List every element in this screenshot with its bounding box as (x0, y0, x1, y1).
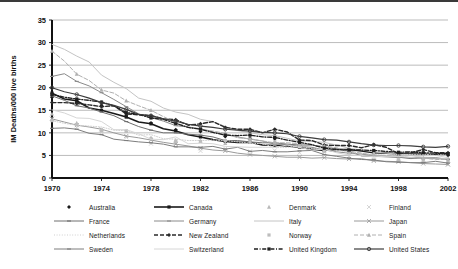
legend-label-sweden: Sweden (86, 246, 113, 253)
legend-swatch (352, 243, 386, 255)
legend-key-united-states (352, 243, 386, 255)
legend-item-spain[interactable]: Spain (352, 228, 452, 242)
data-marker (372, 149, 375, 152)
data-marker (125, 115, 128, 118)
data-marker (50, 119, 53, 122)
legend-key-netherlands (52, 229, 86, 241)
legend-key-italy (252, 215, 286, 227)
figure-top-border (0, 0, 458, 2)
legend-item-denmark[interactable]: Denmark (252, 200, 352, 214)
legend-swatch (252, 229, 286, 241)
legend-item-finland[interactable]: Finland (352, 200, 452, 214)
legend-swatch (152, 215, 186, 227)
data-marker (50, 101, 54, 105)
xtick-label: 1990 (291, 184, 308, 193)
xtick-label: 1994 (341, 184, 359, 193)
ytick-label: 30 (38, 38, 46, 47)
legend-row: Australia Canada Denmark Finland (52, 200, 452, 214)
legend-key-denmark (252, 201, 286, 213)
xtick-label: 1974 (93, 184, 111, 193)
xtick-label: 1982 (192, 184, 209, 193)
y-axis-title: IM Deaths/000 live births (9, 55, 18, 143)
data-marker (224, 139, 227, 142)
legend-swatch (152, 243, 186, 255)
legend-swatch (352, 215, 386, 227)
legend-key-united-kingdom (252, 243, 286, 255)
legend-key-sweden (52, 243, 86, 255)
legend-swatch (252, 201, 286, 213)
xtick-label: 1978 (143, 184, 160, 193)
data-marker (446, 152, 449, 155)
legend-swatch (52, 229, 86, 241)
legend-item-switzerland[interactable]: Switzerland (152, 242, 252, 256)
data-marker (50, 112, 54, 116)
ytick-label: 5 (42, 151, 46, 160)
data-marker (124, 99, 128, 103)
data-marker (50, 93, 53, 96)
legend-item-new-zealand[interactable]: New Zealand (152, 228, 252, 242)
legend-key-france (52, 215, 86, 227)
legend-item-united-kingdom[interactable]: United Kingdom (252, 242, 352, 256)
legend-swatch (352, 229, 386, 241)
legend-label-new-zealand: New Zealand (186, 232, 228, 239)
data-marker (323, 150, 326, 153)
legend-key-spain (352, 229, 386, 241)
data-marker (248, 134, 251, 137)
legend-item-united-states[interactable]: United States (352, 242, 452, 256)
legend-label-finland: Finland (386, 204, 411, 211)
legend-key-japan (352, 215, 386, 227)
legend-label-united-kingdom: United Kingdom (286, 246, 337, 253)
series-line (52, 74, 448, 159)
legend-item-sweden[interactable]: Sweden (52, 242, 152, 256)
legend-swatch (52, 201, 86, 213)
legend-item-france[interactable]: France (52, 214, 152, 228)
data-marker (367, 205, 371, 209)
legend-row: Netherlands New Zealand Norway Spain (52, 228, 452, 242)
legend-label-australia: Australia (86, 204, 115, 211)
legend-item-italy[interactable]: Italy (252, 214, 352, 228)
legend-item-netherlands[interactable]: Netherlands (52, 228, 152, 242)
legend-item-australia[interactable]: Australia (52, 200, 152, 214)
legend-label-canada: Canada (186, 204, 212, 211)
xtick-label: 2002 (440, 184, 457, 193)
legend-item-norway[interactable]: Norway (252, 228, 352, 242)
data-marker (75, 123, 78, 126)
xtick-label: 1986 (242, 184, 259, 193)
legend-item-japan[interactable]: Japan (352, 214, 452, 228)
data-marker (167, 233, 171, 237)
data-marker (273, 136, 276, 139)
data-marker (167, 205, 170, 208)
data-marker (273, 127, 277, 131)
legend-item-germany[interactable]: Germany (152, 214, 252, 228)
data-marker (267, 247, 270, 250)
legend-label-united-states: United States (386, 246, 429, 253)
data-marker (347, 148, 350, 151)
data-marker (149, 122, 152, 125)
data-marker (199, 140, 202, 143)
data-marker (100, 129, 103, 132)
chart-legend: Australia Canada Denmark Finland France (52, 200, 452, 262)
legend-label-netherlands: Netherlands (86, 232, 125, 239)
data-marker (397, 158, 400, 161)
ytick-label: 20 (38, 83, 46, 92)
data-marker (50, 49, 54, 53)
ytick-label: 0 (42, 174, 46, 183)
legend-swatch (52, 215, 86, 227)
legend-swatch (152, 229, 186, 241)
legend-label-japan: Japan (386, 218, 407, 225)
legend-key-germany (152, 215, 186, 227)
data-marker (199, 135, 202, 138)
legend-label-spain: Spain (386, 232, 406, 239)
legend-row: Sweden Switzerland United Kingdom United… (52, 242, 452, 256)
data-marker (174, 140, 177, 143)
data-marker (67, 205, 71, 209)
legend-label-denmark: Denmark (286, 204, 316, 211)
legend-label-italy: Italy (286, 218, 301, 225)
legend-swatch (352, 201, 386, 213)
data-marker (323, 147, 326, 150)
legend-swatch (252, 215, 286, 227)
data-marker (267, 205, 271, 209)
legend-key-finland (352, 201, 386, 213)
legend-key-switzerland (152, 243, 186, 255)
legend-item-canada[interactable]: Canada (152, 200, 252, 214)
